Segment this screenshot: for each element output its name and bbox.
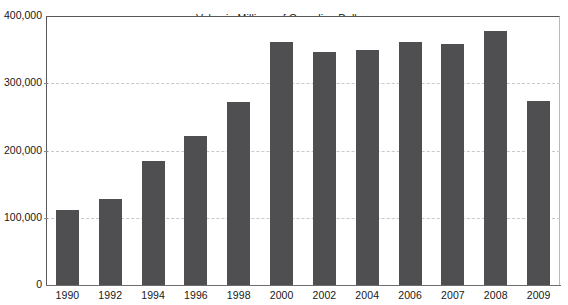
x-axis-tick-label: 2009: [517, 289, 560, 301]
y-axis-tick-label: 200,000: [0, 144, 42, 156]
x-axis-tick-label: 1992: [89, 289, 132, 301]
x-axis-tick-label: 1990: [46, 289, 89, 301]
y-axis-tick-label: 0: [0, 278, 42, 290]
bar: [484, 31, 507, 285]
bar: [142, 161, 165, 285]
x-axis-tick-label: 2006: [389, 289, 432, 301]
x-axis-tick-label: 1996: [175, 289, 218, 301]
gridline: [46, 83, 560, 84]
bar: [399, 42, 422, 285]
bar: [56, 210, 79, 285]
x-axis-tick-label: 1994: [132, 289, 175, 301]
x-axis-tick-label: 2000: [260, 289, 303, 301]
x-axis-tick-label: 1998: [217, 289, 260, 301]
y-axis-tick-mark: [44, 218, 48, 219]
gridline: [46, 218, 560, 219]
gridline: [46, 151, 560, 152]
bar: [227, 102, 250, 285]
y-axis-tick-mark: [44, 151, 48, 152]
x-axis-tick-label: 2008: [474, 289, 517, 301]
y-axis-tick-label: 300,000: [0, 76, 42, 88]
y-axis-tick-mark: [44, 83, 48, 84]
bar-chart-figure: Value in Millions of Canadian Dollars 01…: [0, 0, 568, 305]
x-axis-tick-label: 2004: [346, 289, 389, 301]
x-axis-tick-label: 2002: [303, 289, 346, 301]
bar: [313, 52, 336, 285]
bar: [99, 199, 122, 285]
y-axis-tick-label: 400,000: [0, 9, 42, 21]
x-axis-tick-label: 2007: [432, 289, 475, 301]
x-axis-line: [46, 285, 561, 286]
bar: [441, 44, 464, 285]
bar: [356, 50, 379, 285]
bar: [184, 136, 207, 285]
bar: [527, 101, 550, 285]
bar: [270, 42, 293, 285]
y-axis-tick-label: 100,000: [0, 211, 42, 223]
